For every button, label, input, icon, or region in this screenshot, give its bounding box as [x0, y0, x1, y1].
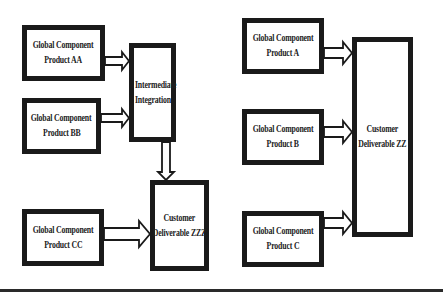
arrow-c-to-zz	[324, 212, 352, 234]
arrow-b-to-zz	[324, 121, 352, 143]
arrow-aa-to-intermediate	[105, 52, 129, 70]
arrow-bb-to-intermediate	[101, 109, 129, 127]
arrows-layer	[0, 0, 443, 293]
arrow-intermediate-to-zzz	[158, 142, 174, 180]
bottom-divider	[0, 289, 443, 292]
arrow-a-to-zz	[324, 42, 352, 64]
arrow-cc-to-zzz	[104, 221, 150, 247]
